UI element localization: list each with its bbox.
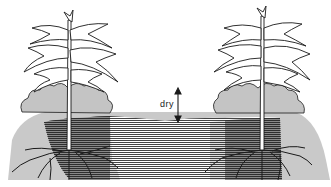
- dry-arrow: [175, 88, 181, 122]
- dry-label: dry: [160, 99, 174, 109]
- moist-soil: [44, 116, 282, 180]
- maize-soil-moisture-diagram: [0, 0, 331, 187]
